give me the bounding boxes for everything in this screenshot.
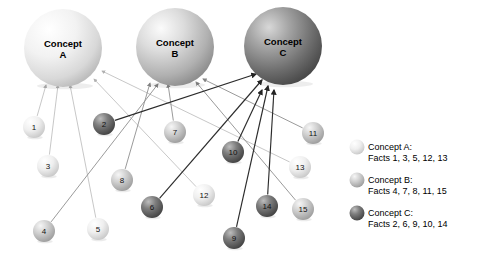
legend-facts-2: Facts 4, 7, 8, 11, 15: [368, 186, 447, 196]
fact-node-10[interactable]: 10: [222, 141, 244, 164]
fact-node-15[interactable]: 15: [292, 198, 314, 221]
fact-label-9: 9: [232, 234, 237, 243]
edge-fact-1-to-concept-A: [37, 85, 46, 116]
fact-node-14[interactable]: 14: [256, 195, 278, 218]
legend-sphere-dark: [350, 206, 365, 221]
concept-node-A[interactable]: ConceptA: [24, 9, 102, 89]
fact-label-8: 8: [120, 176, 125, 185]
legend-layer: Concept A:Facts 1, 3, 5, 12, 13Concept B…: [350, 140, 448, 230]
fact-label-3: 3: [46, 162, 51, 171]
edge-fact-3-to-concept-A: [49, 85, 58, 155]
fact-label-15: 15: [299, 205, 308, 214]
fact-node-4[interactable]: 4: [33, 220, 55, 243]
fact-node-11[interactable]: 11: [302, 122, 324, 145]
edge-fact-14-to-concept-C: [268, 90, 274, 195]
concept-label-A-line1: Concept: [44, 38, 83, 49]
concept-label-B-line1: Concept: [156, 37, 195, 48]
fact-label-12: 12: [200, 191, 209, 200]
concept-layer: ConceptAConceptBConceptC: [24, 7, 322, 89]
fact-node-13[interactable]: 13: [289, 156, 311, 179]
fact-label-1: 1: [32, 123, 37, 132]
legend-title-1: Concept A:: [368, 142, 412, 152]
fact-node-8[interactable]: 8: [111, 169, 133, 192]
concept-label-A-line2: A: [60, 49, 67, 60]
legend-item-2[interactable]: Concept B:Facts 4, 7, 8, 11, 15: [350, 173, 447, 197]
fact-node-9[interactable]: 9: [223, 227, 245, 250]
concept-node-B[interactable]: ConceptB: [136, 8, 214, 88]
concept-label-C-line1: Concept: [264, 36, 303, 47]
fact-node-12[interactable]: 12: [193, 184, 215, 207]
legend-title-2: Concept B:: [368, 175, 413, 185]
fact-label-14: 14: [263, 202, 272, 211]
concept-label-C-line2: C: [280, 47, 287, 58]
fact-label-10: 10: [229, 148, 238, 157]
legend-sphere-light: [350, 140, 365, 155]
fact-label-7: 7: [173, 128, 178, 137]
legend-item-3[interactable]: Concept C:Facts 2, 6, 9, 10, 14: [350, 206, 448, 230]
edge-fact-8-to-concept-B: [125, 83, 150, 169]
legend-sphere-medium: [350, 173, 365, 188]
concept-label-B-line2: B: [172, 48, 179, 59]
fact-node-6[interactable]: 6: [141, 196, 163, 219]
concept-node-C[interactable]: ConceptC: [244, 7, 322, 87]
legend-facts-3: Facts 2, 6, 9, 10, 14: [368, 219, 448, 229]
edge-fact-5-to-concept-A: [70, 85, 96, 218]
fact-label-11: 11: [309, 129, 318, 138]
concept-fact-diagram: ConceptAConceptBConceptC 123456789101112…: [0, 0, 492, 262]
edge-fact-4-to-concept-B: [51, 84, 158, 222]
fact-label-6: 6: [150, 203, 155, 212]
fact-node-7[interactable]: 7: [164, 121, 186, 144]
fact-label-4: 4: [42, 227, 47, 236]
fact-node-5[interactable]: 5: [87, 218, 109, 241]
fact-label-5: 5: [96, 225, 101, 234]
diagram-canvas: ConceptAConceptBConceptC 123456789101112…: [0, 0, 492, 262]
legend-title-3: Concept C:: [368, 208, 413, 218]
legend-item-1[interactable]: Concept A:Facts 1, 3, 5, 12, 13: [350, 140, 448, 164]
fact-label-2: 2: [102, 120, 107, 129]
fact-node-1[interactable]: 1: [23, 116, 45, 139]
fact-node-2[interactable]: 2: [93, 113, 115, 136]
fact-node-3[interactable]: 3: [37, 155, 59, 178]
legend-facts-1: Facts 1, 3, 5, 12, 13: [368, 153, 448, 163]
fact-label-13: 13: [296, 163, 305, 172]
